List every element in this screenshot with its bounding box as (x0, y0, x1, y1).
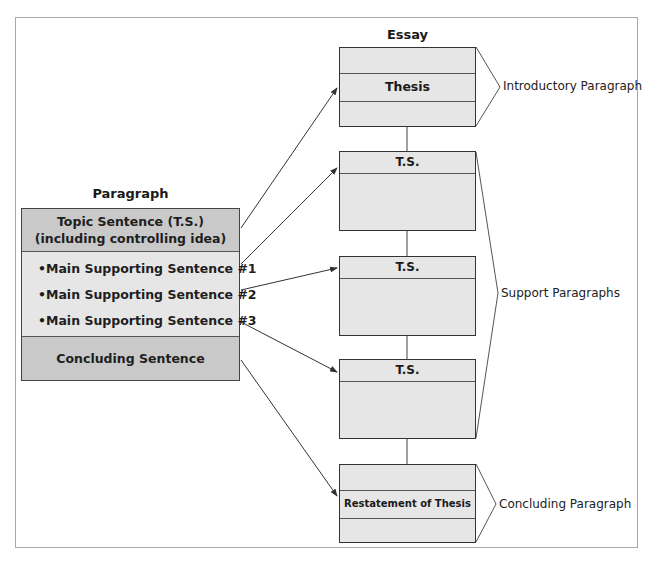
essay-conclusion-box: Restatement of Thesis (339, 464, 476, 543)
support-paragraphs-label: Support Paragraphs (501, 286, 620, 300)
topic-sentence-line2: (including controlling idea) (22, 230, 239, 247)
essay-intro-box: Thesis (339, 47, 476, 127)
essay-support-box-3: T.S. (339, 359, 476, 439)
concluding-paragraph-label: Concluding Paragraph (499, 497, 631, 511)
paragraph-title: Paragraph (21, 186, 240, 201)
topic-sentence-header: T.S. (340, 257, 475, 279)
essay-support-box-2: T.S. (339, 256, 476, 336)
essay-support-box-1: T.S. (339, 151, 476, 231)
concluding-sentence-section: Concluding Sentence (22, 337, 239, 380)
arrow-topic-to-thesis (241, 88, 337, 228)
supporting-sentence-1: •Main Supporting Sentence #1 (38, 261, 257, 276)
supporting-sentence-2: •Main Supporting Sentence #2 (38, 287, 257, 302)
thesis-band: Thesis (340, 73, 475, 102)
restatement-band: Restatement of Thesis (340, 490, 475, 519)
arrow-support1-to-ts1 (241, 168, 337, 264)
paragraph-box: Topic Sentence (T.S.) (including control… (21, 208, 240, 381)
bracket-introductory (476, 47, 500, 126)
supporting-sentences-section: •Main Supporting Sentence #1 •Main Suppo… (22, 252, 239, 337)
bracket-concluding (476, 464, 496, 542)
introductory-paragraph-label: Introductory Paragraph (503, 79, 642, 93)
topic-sentence-header: T.S. (340, 360, 475, 382)
topic-sentence-header: T.S. (340, 152, 475, 174)
topic-sentence-section: Topic Sentence (T.S.) (including control… (22, 209, 239, 252)
arrow-concluding-to-restatement (241, 360, 337, 496)
essay-title: Essay (339, 27, 476, 42)
supporting-sentence-3: •Main Supporting Sentence #3 (38, 313, 257, 328)
topic-sentence-line1: Topic Sentence (T.S.) (22, 213, 239, 230)
bracket-support (476, 152, 498, 438)
arrow-support3-to-ts3 (241, 322, 337, 372)
